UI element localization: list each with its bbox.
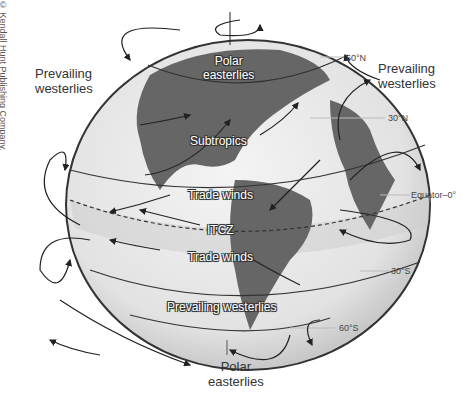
latitude-30s: 30°S xyxy=(391,266,411,276)
label-polar-easterlies-south: Polar easterlies xyxy=(208,359,264,389)
label-polar-easterlies-north: Polar easterlies xyxy=(203,54,254,82)
label-line: easterlies xyxy=(208,374,264,389)
label-trade-winds-north: Trade winds xyxy=(188,188,253,202)
label-line: Prevailing xyxy=(378,61,436,76)
label-line: Polar xyxy=(203,54,254,68)
label-line: Prevailing xyxy=(35,66,93,81)
label-subtropics: Subtropics xyxy=(190,134,247,148)
label-line: easterlies xyxy=(203,68,254,82)
label-line: Polar xyxy=(208,359,264,374)
latitude-30n: 30°N xyxy=(388,113,408,123)
latitude-60s: 60°S xyxy=(339,323,359,333)
label-prevailing-westerlies-south: Prevailing westerlies xyxy=(167,300,276,314)
label-trade-winds-south: Trade winds xyxy=(188,250,253,264)
latitude-60n: 60°N xyxy=(346,53,366,63)
label-itcz: ITCZ xyxy=(207,223,234,237)
latitude-equator: Equator–0° xyxy=(411,190,456,200)
label-line: westerlies xyxy=(35,81,93,96)
label-prevailing-westerlies-ne: Prevailing westerlies xyxy=(378,61,436,91)
label-prevailing-westerlies-nw: Prevailing westerlies xyxy=(35,66,93,96)
label-line: westerlies xyxy=(378,76,436,91)
